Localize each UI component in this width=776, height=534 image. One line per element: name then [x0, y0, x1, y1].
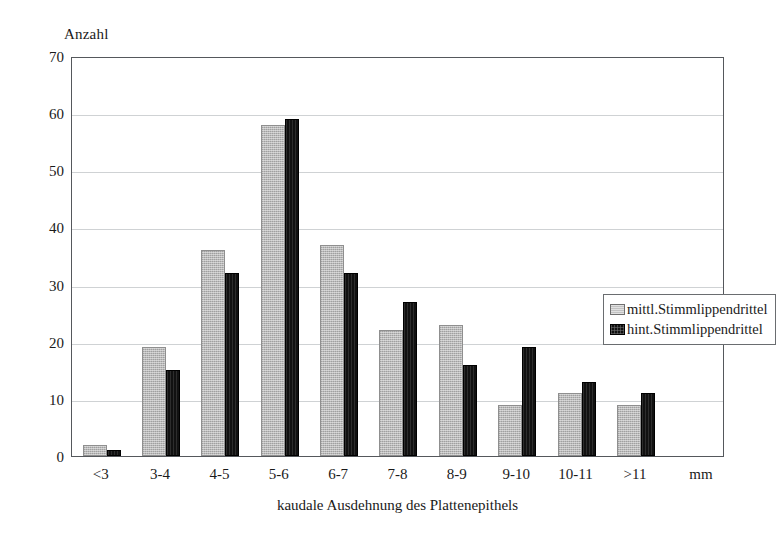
bar-mittl-stimmlippendrittel — [439, 325, 463, 456]
x-tick-label: 5-6 — [269, 466, 289, 483]
bar-hint-stimmlippendrittel — [582, 382, 596, 456]
bar-group — [369, 58, 428, 456]
bar-mittl-stimmlippendrittel — [558, 393, 582, 456]
x-tick-label: 6-7 — [328, 466, 348, 483]
x-tick-label: 9-10 — [502, 466, 530, 483]
x-axis-unit-label: mm — [689, 466, 712, 483]
bar-hint-stimmlippendrittel — [641, 393, 655, 456]
bar-mittl-stimmlippendrittel — [83, 445, 107, 456]
gray-swatch-icon — [610, 304, 625, 315]
x-axis-title: kaudale Ausdehnung des Plattenepithels — [71, 497, 724, 514]
bar-group — [488, 58, 547, 456]
bar-group — [191, 58, 250, 456]
bar-mittl-stimmlippendrittel — [261, 125, 285, 456]
legend-item-label: mittl.Stimmlippendrittel — [627, 302, 768, 317]
y-tick-label: 30 — [30, 277, 64, 294]
bar-group — [131, 58, 190, 456]
bar-group — [547, 58, 606, 456]
x-axis-tick-labels: <33-44-55-66-77-88-99-1010-11>11 — [71, 466, 724, 490]
x-tick-label: 10-11 — [558, 466, 592, 483]
bar-hint-stimmlippendrittel — [522, 347, 536, 456]
bar-hint-stimmlippendrittel — [463, 365, 477, 456]
bar-mittl-stimmlippendrittel — [498, 405, 522, 456]
y-tick-label: 70 — [30, 49, 64, 66]
x-tick-label: <3 — [93, 466, 109, 483]
black-swatch-icon — [610, 324, 625, 335]
bar-hint-stimmlippendrittel — [285, 119, 299, 456]
legend: mittl.Stimmlippendrittel hint.Stimmlippe… — [603, 294, 776, 345]
y-tick-label: 20 — [30, 334, 64, 351]
bar-mittl-stimmlippendrittel — [617, 405, 641, 456]
bar-hint-stimmlippendrittel — [225, 273, 239, 456]
y-tick-label: 0 — [30, 449, 64, 466]
x-tick-label: 8-9 — [447, 466, 467, 483]
legend-item: mittl.Stimmlippendrittel — [610, 299, 768, 319]
y-tick-label: 50 — [30, 163, 64, 180]
bar-hint-stimmlippendrittel — [344, 273, 358, 456]
bar-mittl-stimmlippendrittel — [379, 330, 403, 456]
legend-item-label: hint.Stimmlippendrittel — [627, 322, 763, 337]
x-tick-label: 3-4 — [150, 466, 170, 483]
x-tick-label: 4-5 — [209, 466, 229, 483]
bar-hint-stimmlippendrittel — [166, 370, 180, 456]
bar-group — [606, 58, 665, 456]
bar-mittl-stimmlippendrittel — [201, 250, 225, 456]
y-tick-label: 60 — [30, 106, 64, 123]
bar-hint-stimmlippendrittel — [107, 450, 121, 456]
bars-layer — [72, 58, 723, 456]
bar-hint-stimmlippendrittel — [403, 302, 417, 456]
bar-group — [428, 58, 487, 456]
bar-mittl-stimmlippendrittel — [320, 245, 344, 456]
bar-mittl-stimmlippendrittel — [142, 347, 166, 456]
y-axis-title: Anzahl — [64, 26, 109, 43]
x-tick-label: >11 — [624, 466, 647, 483]
y-axis-tick-labels: 010203040506070 — [26, 57, 64, 457]
y-tick-label: 10 — [30, 391, 64, 408]
bar-group — [309, 58, 368, 456]
plot-area: mittl.Stimmlippendrittel hint.Stimmlippe… — [71, 57, 724, 457]
y-tick-label: 40 — [30, 220, 64, 237]
legend-item: hint.Stimmlippendrittel — [610, 319, 768, 339]
bar-group — [72, 58, 131, 456]
x-tick-label: 7-8 — [388, 466, 408, 483]
bar-group — [250, 58, 309, 456]
